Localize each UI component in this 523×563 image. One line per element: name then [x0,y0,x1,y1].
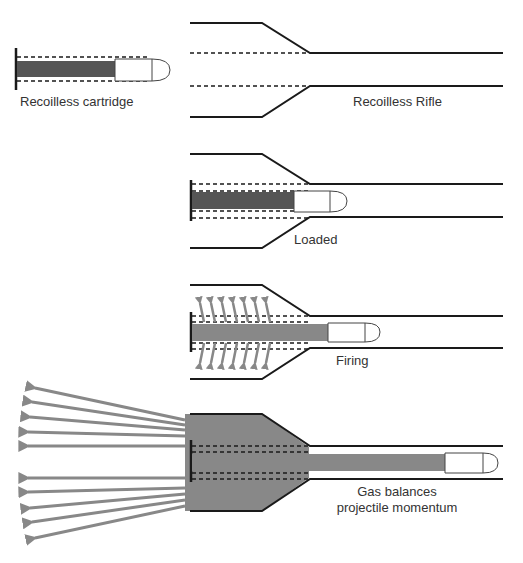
rifle-label: Recoilless Rifle [353,94,442,109]
balanced-label-line2: projectile momentum [322,500,472,515]
balanced-label-line1: Gas balances [322,484,472,499]
cartridge-drawing [16,48,170,90]
loaded-label: Loaded [294,232,337,247]
firing-label: Firing [336,353,369,368]
exhaust-arrows [28,388,185,538]
loaded-drawing [190,154,503,248]
balanced-drawing [28,388,503,538]
rifle-drawing [190,23,503,117]
recoilless-rifle-diagram: Recoilless cartridge Recoilless Rifle Lo… [0,0,523,563]
cartridge-label: Recoilless cartridge [20,94,133,109]
